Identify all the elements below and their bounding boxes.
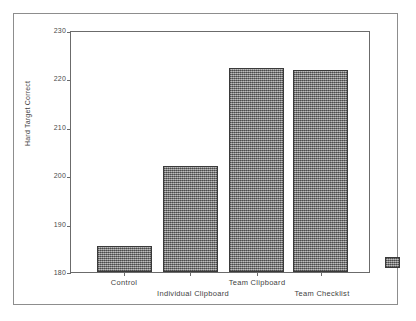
x-tick-mark bbox=[257, 273, 258, 276]
bar-individual-clipboard bbox=[163, 166, 218, 272]
plot-area bbox=[70, 31, 370, 273]
y-axis-tick-labels: 230 220 210 200 190 180 bbox=[44, 31, 66, 273]
bar-team-checklist bbox=[293, 70, 348, 272]
y-axis-title: Hard Target Correct bbox=[24, 81, 32, 146]
y-tick-label: 220 bbox=[44, 75, 66, 83]
bars-layer bbox=[71, 32, 369, 272]
y-tick-label: 190 bbox=[44, 221, 66, 229]
y-tick-label: 230 bbox=[44, 27, 66, 35]
y-tick-label: 200 bbox=[44, 172, 66, 180]
y-tick-label: 210 bbox=[44, 124, 66, 132]
x-axis-label-team-checklist: Team Checklist bbox=[294, 289, 349, 298]
bar-chart-figure: Hard Target Correct 230 220 210 200 190 … bbox=[0, 0, 416, 321]
y-tick-label: 180 bbox=[44, 269, 66, 277]
x-axis-label-control: Control bbox=[111, 278, 137, 287]
y-tick-mark bbox=[67, 273, 71, 274]
x-axis-label-individual-clipboard: Individual Clipboard bbox=[157, 289, 229, 298]
x-tick-mark bbox=[124, 273, 125, 276]
bar-control bbox=[97, 246, 152, 272]
x-tick-mark bbox=[321, 273, 322, 276]
bar-team-clipboard bbox=[229, 68, 284, 272]
legend-swatch bbox=[385, 257, 400, 268]
x-tick-mark bbox=[190, 273, 191, 276]
x-axis-label-team-clipboard: Team Clipboard bbox=[229, 278, 286, 287]
